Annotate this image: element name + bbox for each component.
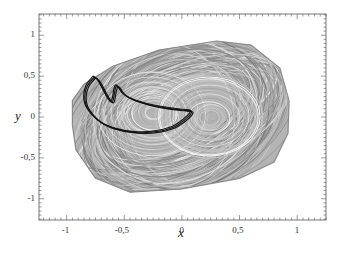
y-tick-label: -0,5 [21,153,35,162]
y-tick-label: 1 [31,30,36,39]
x-tick-label: 0,5 [232,226,243,235]
x-tick-label: -1 [62,226,70,235]
y-tick-label: 0 [31,112,36,121]
y-tick-label: -1 [28,194,36,203]
attractor-band [36,0,325,232]
x-tick-label: 1 [295,226,300,235]
x-axis-label: x [178,225,184,241]
x-tick-label: -0,5 [115,226,129,235]
y-tick-label: 0,5 [24,71,35,80]
chart-canvas [0,0,342,255]
y-axis-label: y [15,108,21,124]
